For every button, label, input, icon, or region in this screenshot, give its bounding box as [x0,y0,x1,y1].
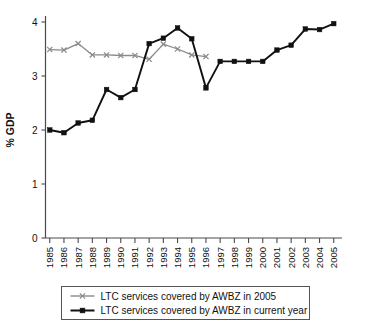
x-tick-label: 1992 [144,247,155,268]
x-tick-label: 1998 [229,247,240,268]
data-point-marker [204,86,209,91]
data-point-marker [189,36,194,41]
data-point-marker [232,59,237,64]
data-point-marker [47,128,52,133]
data-point-marker [76,121,81,126]
data-point-marker [303,27,308,32]
x-tick-label: 2005 [328,247,339,268]
data-point-marker [175,26,180,31]
x-tick-label: 1985 [44,247,55,268]
x-tick-label: 1989 [101,247,112,268]
x-tick-label: 1995 [186,247,197,268]
data-point-marker [62,130,67,135]
legend-marker-square [80,308,85,313]
x-tick-label: 1994 [172,247,183,268]
data-point-marker [104,87,109,92]
x-tick-label: 2003 [300,247,311,268]
data-point-marker [246,59,251,64]
x-tick-label: 1988 [87,247,98,268]
x-tick-label: 1993 [158,247,169,268]
legend-item[interactable]: LTC services covered by AWBZ in current … [71,305,308,316]
plot-area [47,21,336,135]
legend-item[interactable]: LTC services covered by AWBZ in 2005 [71,291,277,302]
y-axis-title: % GDP [4,112,16,147]
data-point-marker [275,48,280,53]
x-tick-label: 2001 [271,247,282,268]
x-tick-label: 1996 [200,247,211,268]
legend-item-label: LTC services covered by AWBZ in current … [101,305,308,316]
x-tick-label: 1990 [115,247,126,268]
x-tick-label: 2002 [286,247,297,268]
y-tick-label: 4 [32,17,38,28]
x-axis: 1985198619871988198919901991199219931994… [44,238,342,268]
data-point-marker [133,87,138,92]
data-point-marker [118,95,123,100]
chart-legend: LTC services covered by AWBZ in 2005LTC … [62,287,310,320]
data-point-marker [260,59,265,64]
y-tick-label: 3 [32,71,38,82]
legend-item-label: LTC services covered by AWBZ in 2005 [101,291,277,302]
data-point-marker [317,27,322,32]
x-tick-label: 1991 [129,247,140,268]
data-point-marker [76,41,81,46]
y-tick-label: 2 [32,125,38,136]
series-line [50,44,206,60]
x-tick-label: 2000 [257,247,268,268]
chart-container: 01234 1985198619871988198919901991199219… [0,0,369,327]
x-tick-label: 2004 [314,247,325,268]
data-point-marker [161,36,166,41]
x-tick-label: 1999 [243,247,254,268]
y-axis-title-label: % GDP [4,112,16,147]
y-tick-label: 0 [32,233,38,244]
x-tick-label: 1997 [215,247,226,268]
line-chart: 01234 1985198619871988198919901991199219… [0,0,369,327]
data-point-marker [289,43,294,48]
x-tick-label: 1986 [58,247,69,268]
data-point-marker [90,118,95,123]
x-tick-label: 1987 [73,247,84,268]
data-point-marker [218,59,223,64]
y-axis: 01234 [32,16,46,244]
data-point-marker [331,21,336,26]
data-point-marker [147,41,152,46]
y-tick-label: 1 [32,179,38,190]
